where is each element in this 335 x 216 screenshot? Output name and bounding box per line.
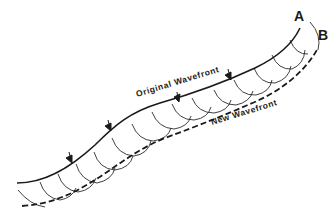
arrow-icon (105, 120, 111, 131)
label-a: A (294, 8, 304, 24)
arrow-icon (225, 69, 231, 80)
label-b: B (318, 27, 328, 43)
new-wavefront-line (22, 48, 318, 206)
secondary-wavelets (18, 22, 319, 207)
huygens-diagram: A B Original Wavefront New Wavefront (0, 0, 335, 216)
arrow-icon (174, 92, 180, 102)
arrow-icon (66, 152, 72, 163)
